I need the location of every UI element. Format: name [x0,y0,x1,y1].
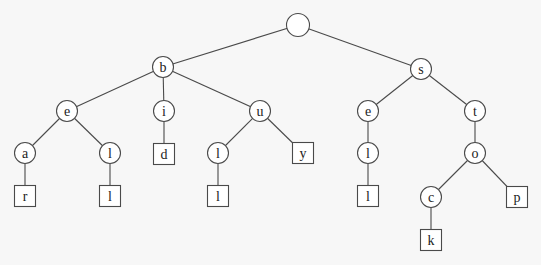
nodes-layer: bseiuetaldlylorlllcpk [15,14,528,251]
trie-node-b: b [153,57,174,78]
edge-b-be [67,67,163,111]
node-label: c [428,190,434,205]
trie-node-bul: l [208,143,229,164]
leaf-node-stop: p [507,187,528,208]
node-label: t [473,104,477,119]
leaf-node-bull: l [208,186,229,207]
leaf-node-stock: k [421,230,442,251]
leaf-node-bear: r [15,186,36,207]
node-label: l [108,146,112,161]
trie-diagram: bseiuetaldlylorlllcpk [0,0,541,265]
leaf-node-buy: y [293,143,314,164]
leaf-node-bid: d [154,144,175,165]
node-label: s [418,62,423,77]
node-label: e [365,104,371,119]
node-label: k [428,233,435,248]
trie-node-bel: l [100,143,121,164]
node-label: l [216,189,220,204]
node-label: l [366,146,370,161]
node-label: o [472,146,479,161]
trie-node-sto: o [465,143,486,164]
trie-node-bi: i [154,101,175,122]
trie-node-bu: u [250,101,271,122]
trie-node-se: e [358,101,379,122]
node-label: b [160,60,167,75]
trie-node-root [287,14,310,37]
node-label: p [514,190,521,205]
trie-node-s: s [411,59,432,80]
node-label: r [23,189,28,204]
node-circle [287,14,310,37]
leaf-node-bell: l [100,186,121,207]
node-label: a [22,146,29,161]
node-label: e [64,104,70,119]
edge-root-s [298,25,421,69]
node-label: l [216,146,220,161]
edges-layer [25,25,517,240]
trie-node-st: t [465,101,486,122]
edge-b-bu [163,67,260,111]
edge-root-b [163,25,298,67]
node-label: l [366,189,370,204]
trie-node-be: e [57,101,78,122]
leaf-node-sell: l [358,186,379,207]
node-label: l [108,189,112,204]
trie-node-sel: l [358,143,379,164]
trie-node-bea: a [15,143,36,164]
node-label: y [300,146,307,161]
trie-node-stoc: c [421,187,442,208]
node-label: d [161,147,168,162]
node-label: i [162,104,166,119]
node-label: u [257,104,264,119]
